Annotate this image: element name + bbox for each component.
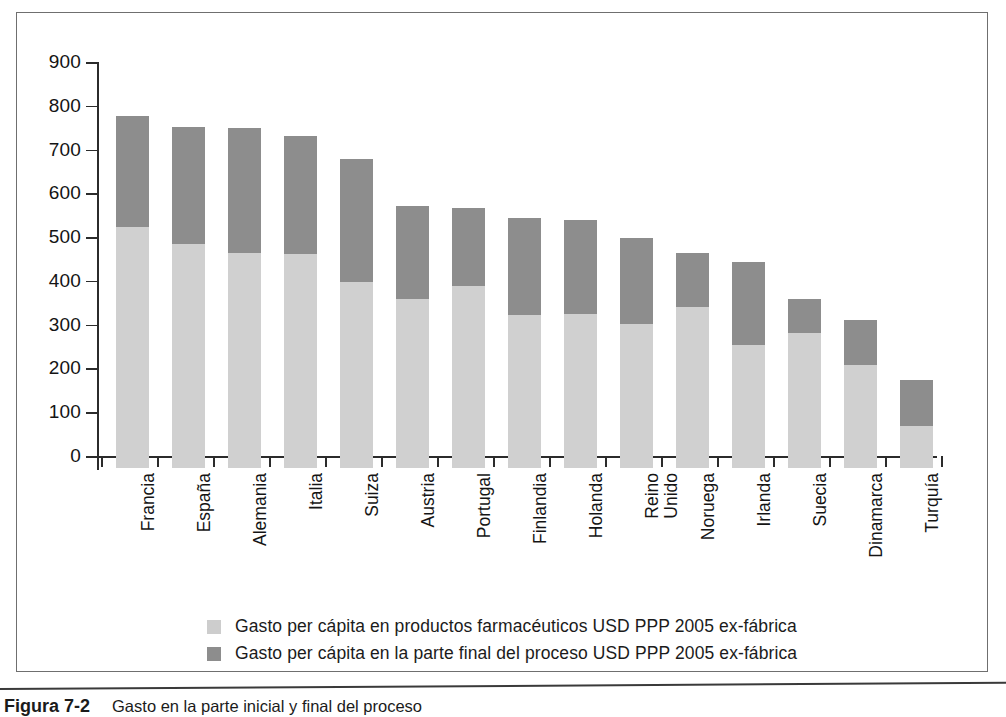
x-axis-tick	[941, 456, 943, 467]
legend-label-farmaceuticos: Gasto per cápita en productos farmacéuti…	[235, 616, 797, 637]
bar-alemania	[228, 128, 261, 468]
bar-segment-farmaceuticos	[564, 314, 597, 468]
y-axis-tick-label: 300	[33, 314, 81, 336]
bar-dinamarca	[844, 320, 877, 468]
bar-segment-farmaceuticos	[340, 282, 373, 468]
bar-españa	[172, 127, 205, 468]
y-axis-tick-label: 800	[33, 95, 81, 117]
y-axis-tick-label: 700	[33, 139, 81, 161]
bar-segment-parte-final	[508, 218, 541, 314]
y-axis-tick	[86, 368, 97, 370]
bar-segment-parte-final	[340, 159, 373, 282]
bar-stack	[732, 262, 765, 468]
x-axis-tick	[717, 456, 719, 467]
x-axis-label-austria: Austria	[419, 473, 438, 527]
bar-segment-parte-final	[564, 220, 597, 314]
caption-number: Figura 7-2	[4, 696, 90, 716]
x-axis-tick	[661, 456, 663, 467]
bar-segment-parte-final	[620, 238, 653, 323]
chart-legend: Gasto per cápita en productos farmacéuti…	[207, 613, 797, 667]
x-axis-tick	[605, 456, 607, 467]
x-axis-tick	[885, 456, 887, 467]
y-axis-tick-label: 0	[33, 445, 81, 467]
x-axis-label-turquía: Turquía	[923, 473, 942, 533]
bar-suecia	[788, 299, 821, 468]
bar-segment-parte-final	[900, 380, 933, 426]
x-axis-tick	[773, 456, 775, 467]
bar-segment-parte-final	[228, 128, 261, 253]
x-axis-label-portugal: Portugal	[475, 473, 494, 538]
bar-stack	[564, 220, 597, 468]
y-axis-tick-label: 100	[33, 401, 81, 423]
bar-segment-parte-final	[732, 262, 765, 344]
x-axis-label-francia: Francia	[139, 473, 158, 531]
x-axis-tick	[549, 456, 551, 467]
y-axis-tick-label: 600	[33, 182, 81, 204]
plot-area	[97, 62, 937, 468]
bar-segment-parte-final	[116, 116, 149, 228]
x-axis-label-dinamarca: Dinamarca	[867, 473, 886, 558]
x-axis-tick	[493, 456, 495, 467]
bar-segment-farmaceuticos	[452, 286, 485, 468]
bar-stack	[900, 380, 933, 468]
bar-stack	[340, 159, 373, 469]
bar-stack	[788, 299, 821, 468]
y-axis-tick	[86, 150, 97, 152]
x-axis-tick	[381, 456, 383, 467]
bar-stack	[508, 218, 541, 468]
bar-segment-farmaceuticos	[676, 307, 709, 468]
bar-stack	[396, 206, 429, 468]
bar-irlanda	[732, 262, 765, 468]
figure-caption: Figura 7-2Gasto en la parte inicial y fi…	[4, 696, 1004, 717]
legend-item-farmaceuticos: Gasto per cápita en productos farmacéuti…	[207, 613, 797, 640]
bar-finlandia	[508, 218, 541, 468]
light-gray-swatch-icon	[207, 620, 221, 634]
bar-segment-parte-final	[172, 127, 205, 244]
bar-segment-farmaceuticos	[284, 254, 317, 469]
x-axis-label-españa: España	[195, 473, 214, 532]
bar-segment-farmaceuticos	[900, 426, 933, 468]
bar-segment-farmaceuticos	[620, 324, 653, 468]
y-axis-tick	[86, 325, 97, 327]
y-axis-tick	[86, 281, 97, 283]
x-axis-tick	[101, 456, 103, 467]
legend-item-parte-final: Gasto per cápita en la parte final del p…	[207, 640, 797, 667]
dark-gray-swatch-icon	[207, 647, 221, 661]
y-axis-tick	[86, 456, 97, 458]
bar-stack	[452, 208, 485, 468]
bar-segment-farmaceuticos	[172, 244, 205, 468]
bar-segment-farmaceuticos	[844, 365, 877, 468]
bar-noruega	[676, 253, 709, 468]
figure-frame: 0100200300400500600700800900 FranciaEspa…	[16, 12, 988, 672]
x-axis-tick	[829, 456, 831, 467]
legend-label-parte-final: Gasto per cápita en la parte final del p…	[235, 643, 797, 664]
y-axis-tick-label: 200	[33, 357, 81, 379]
bar-stack	[116, 116, 149, 468]
bar-segment-farmaceuticos	[508, 315, 541, 468]
x-axis-label-holanda: Holanda	[587, 473, 606, 538]
bar-stack	[844, 320, 877, 468]
x-axis-label-alemania: Alemania	[251, 473, 270, 546]
bar-holanda	[564, 220, 597, 468]
bar-segment-farmaceuticos	[396, 299, 429, 468]
bar-portugal	[452, 208, 485, 468]
x-axis-label-noruega: Noruega	[699, 473, 718, 540]
bar-segment-farmaceuticos	[788, 333, 821, 468]
bar-stack	[172, 127, 205, 468]
x-axis-tick	[157, 456, 159, 467]
caption-rule	[0, 682, 1006, 690]
y-axis-tick	[86, 193, 97, 195]
y-axis-tick	[86, 237, 97, 239]
bar-stack	[228, 128, 261, 468]
y-axis-tick-label: 500	[33, 226, 81, 248]
bar-segment-farmaceuticos	[228, 253, 261, 468]
x-axis-label-suecia: Suecia	[811, 473, 830, 527]
bar-segment-parte-final	[452, 208, 485, 286]
y-axis-tick	[86, 412, 97, 414]
x-axis-tick	[269, 456, 271, 467]
bar-stack	[620, 238, 653, 468]
bar-segment-parte-final	[396, 206, 429, 299]
bar-segment-farmaceuticos	[116, 227, 149, 468]
x-axis-label-finlandia: Finlandia	[531, 473, 550, 544]
bar-stack	[284, 136, 317, 468]
